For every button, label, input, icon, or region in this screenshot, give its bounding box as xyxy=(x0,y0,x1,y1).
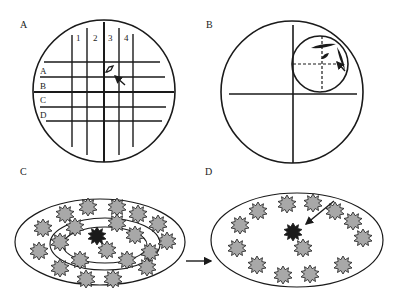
cell-counting-diagram: A 1 2 3 4 A B C D xyxy=(0,0,398,302)
cell-outline-icon xyxy=(106,66,113,72)
panel-d: D xyxy=(205,166,383,287)
target-cell-icon xyxy=(88,227,106,245)
target-cell-icon xyxy=(284,223,302,241)
panel-a: A 1 2 3 4 A B C D xyxy=(20,19,175,162)
column-label-4: 4 xyxy=(124,33,129,43)
surrounding-cells xyxy=(228,194,372,284)
panel-label-b: B xyxy=(206,19,213,30)
column-label-3: 3 xyxy=(108,33,113,43)
row-label-c: C xyxy=(40,95,46,105)
elongated-cell-icon xyxy=(311,44,336,48)
panel-label-c: C xyxy=(20,166,27,177)
column-label-2: 2 xyxy=(93,33,98,43)
column-labels: 1 2 3 4 xyxy=(76,33,129,43)
column-label-1: 1 xyxy=(76,33,81,43)
microscope-field-circle xyxy=(221,21,363,163)
row-label-a: A xyxy=(40,66,47,76)
row-label-b: B xyxy=(40,81,46,91)
panel-c: C xyxy=(15,166,185,288)
panel-label-d: D xyxy=(205,166,212,177)
surrounding-cells xyxy=(30,198,176,288)
panel-label-a: A xyxy=(20,19,28,30)
panel-b: B xyxy=(206,19,363,163)
row-label-d: D xyxy=(40,110,47,120)
